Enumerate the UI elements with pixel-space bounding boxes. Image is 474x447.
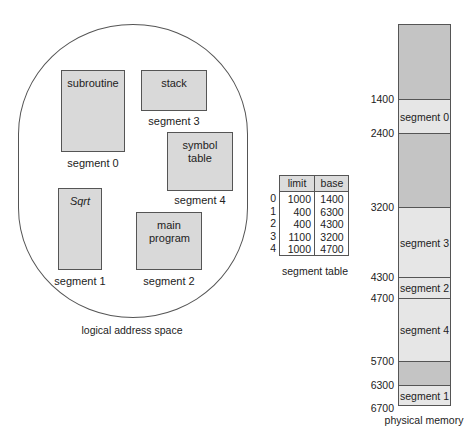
- memory-block-segment-1: segment 1: [399, 386, 450, 405]
- address-2400: 2400: [358, 127, 394, 139]
- segment-table: limit base 1000 1400 400 6300 400 4300 1…: [279, 175, 349, 256]
- segment-name: symbol table: [183, 139, 218, 164]
- memory-block-segment-2: segment 2: [399, 278, 450, 299]
- memory-block-free: [399, 25, 450, 100]
- row-index-3: 3: [266, 230, 276, 243]
- physical-memory: segment 0 segment 3 segment 2 segment 4 …: [398, 24, 451, 406]
- row-index-2: 2: [266, 217, 276, 230]
- address-1400: 1400: [358, 93, 394, 105]
- base-1: 6300: [315, 206, 349, 219]
- segment-name: subroutine: [67, 77, 118, 89]
- row-index-0: 0: [266, 192, 276, 205]
- segment-symbol-table: symbol table: [167, 132, 233, 191]
- address-5700: 5700: [358, 355, 394, 367]
- address-3200: 3200: [358, 201, 394, 213]
- limit-4: 1000: [280, 243, 311, 256]
- segment-stack: stack: [141, 70, 207, 111]
- limit-1: 400: [280, 206, 311, 219]
- memory-block-segment-3: segment 3: [399, 208, 450, 278]
- segment-name: main program: [149, 219, 190, 244]
- address-4300: 4300: [358, 271, 394, 283]
- limit-2: 400: [280, 218, 311, 231]
- memory-block-segment-4: segment 4: [399, 299, 450, 362]
- physical-memory-caption: physical memory: [378, 414, 470, 426]
- address-6300: 6300: [358, 379, 394, 391]
- segment-table-caption: segment table: [270, 265, 360, 277]
- segment-main-program: main program: [136, 212, 202, 270]
- memory-block-segment-0: segment 0: [399, 100, 450, 134]
- limit-3: 1100: [280, 231, 311, 244]
- header-base: base: [315, 177, 349, 190]
- header-limit: limit: [280, 177, 314, 190]
- base-0: 1400: [315, 193, 349, 206]
- segment-3-label: segment 3: [141, 115, 207, 127]
- segment-4-label: segment 4: [167, 194, 233, 206]
- segment-0-label: segment 0: [61, 157, 125, 169]
- limit-0: 1000: [280, 193, 311, 206]
- row-index-4: 4: [266, 242, 276, 255]
- address-6700: 6700: [358, 402, 394, 414]
- address-4700: 4700: [358, 292, 394, 304]
- memory-block-free: [399, 362, 450, 386]
- segment-1-label: segment 1: [50, 275, 110, 287]
- base-4: 4700: [315, 243, 349, 256]
- segment-name: Sqrt: [70, 195, 90, 207]
- base-2: 4300: [315, 218, 349, 231]
- memory-block-free: [399, 134, 450, 208]
- segment-name: stack: [161, 77, 187, 89]
- base-3: 3200: [315, 231, 349, 244]
- logical-address-space-caption: logical address space: [62, 324, 202, 336]
- segment-subroutine: subroutine: [61, 70, 125, 152]
- row-index-1: 1: [266, 205, 276, 218]
- segment-2-label: segment 2: [136, 275, 202, 287]
- segment-sqrt: Sqrt: [58, 188, 102, 270]
